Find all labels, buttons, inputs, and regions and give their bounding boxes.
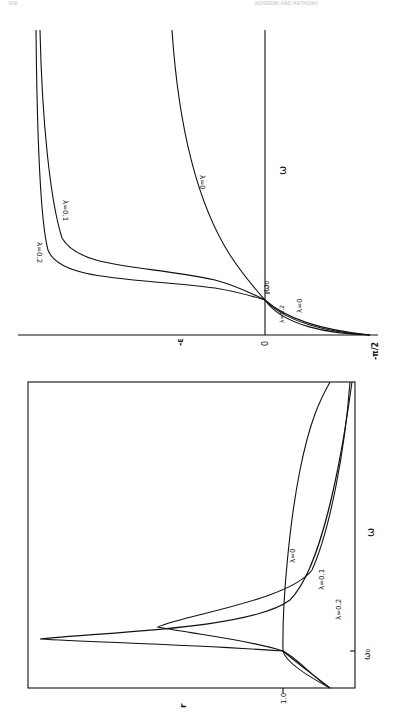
- bottom-label-lambda-0.1: λ=0.1: [318, 569, 326, 590]
- top-label-small-lambda-0.2: λ=0.2: [278, 305, 285, 323]
- bottom-plot-frame: [28, 382, 355, 688]
- bottom-labels: λ=0 λ=0.1 λ=0.2 ω ω₀ 1.0 r: [178, 528, 377, 708]
- top-figure: [18, 30, 378, 335]
- bottom-curve-lambda-0: [283, 382, 330, 688]
- top-tick-zero: 0: [261, 341, 270, 346]
- top-label-lambda-0.1: λ=0.1: [61, 200, 69, 221]
- figure-canvas: λ=0 λ=0.1 λ=0.2 λ=0 λ=0.2 ω ω₀ -ε 0 -π/2…: [0, 0, 397, 717]
- bottom-omega0-label: ω₀: [362, 648, 372, 660]
- bottom-y-axis-label: r: [178, 703, 188, 708]
- top-x-axis-label: ω: [276, 166, 289, 175]
- bottom-curve-lambda-0.2: [40, 382, 352, 688]
- bottom-label-lambda-0: λ=0: [289, 549, 297, 563]
- bottom-label-lambda-0.2: λ=0.2: [335, 599, 343, 620]
- top-omega0-label: ω₀: [261, 280, 271, 292]
- bottom-x-axis-label: ω: [364, 528, 377, 537]
- bottom-figure: [28, 382, 355, 693]
- top-y-axis-label: -ε: [176, 338, 185, 346]
- bottom-tick-one-label: 1.0: [280, 693, 288, 704]
- top-label-lambda-0.2: λ=0.2: [35, 242, 43, 263]
- top-tick-pi2: -π/2: [371, 342, 380, 360]
- top-label-small-lambda-0: λ=0: [296, 299, 304, 313]
- top-label-lambda-0: λ=0: [198, 175, 206, 189]
